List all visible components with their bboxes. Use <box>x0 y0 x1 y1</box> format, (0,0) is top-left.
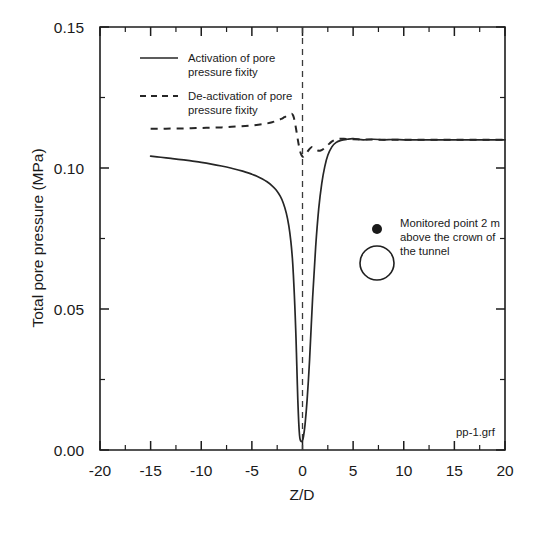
pore-pressure-chart: -20-15-10-505101520 0.000.050.100.15 Z/D… <box>0 0 551 540</box>
corner-file-label: pp-1.grf <box>456 426 496 438</box>
figure-container: -20-15-10-505101520 0.000.050.100.15 Z/D… <box>0 0 551 540</box>
x-tick-label: -20 <box>89 462 112 479</box>
x-tick-label: 0 <box>298 462 307 479</box>
tunnel-circle-icon <box>360 246 394 280</box>
x-tick-label: 20 <box>496 462 514 479</box>
series-deactivation-line <box>151 114 505 157</box>
annotation-line-1: Monitored point 2 m <box>400 217 500 229</box>
legend-label-activation-line2: pressure fixity <box>188 66 258 78</box>
series-group <box>151 114 505 442</box>
x-tick-label: -15 <box>139 462 161 479</box>
x-tick-label: 5 <box>349 462 358 479</box>
legend-label-deactivation-line1: De-activation of pore <box>188 90 292 102</box>
y-tick-label: 0.00 <box>54 442 85 459</box>
monitored-point-annotation: Monitored point 2 m above the crown of t… <box>360 217 500 280</box>
monitored-point-dot-icon <box>372 224 382 234</box>
chart-legend: Activation of pore pressure fixity De-ac… <box>140 52 292 116</box>
y-axis-title: Total pore pressure (MPa) <box>29 148 46 327</box>
x-axis-title: Z/D <box>290 486 315 503</box>
y-axis-tick-labels: 0.000.050.100.15 <box>54 19 85 459</box>
x-tick-label: 15 <box>446 462 463 479</box>
x-tick-label: -10 <box>190 462 213 479</box>
legend-label-deactivation-line2: pressure fixity <box>188 104 258 116</box>
annotation-line-2: above the crown of <box>400 231 496 243</box>
y-tick-label: 0.10 <box>54 160 85 177</box>
x-tick-label: 10 <box>395 462 413 479</box>
x-tick-label: -5 <box>245 462 259 479</box>
legend-label-activation-line1: Activation of pore <box>188 52 275 64</box>
x-axis-tick-labels: -20-15-10-505101520 <box>89 462 514 479</box>
y-tick-label: 0.05 <box>54 301 84 318</box>
series-activation-line <box>151 139 505 442</box>
y-tick-label: 0.15 <box>54 19 84 36</box>
annotation-line-3: the tunnel <box>400 245 450 257</box>
